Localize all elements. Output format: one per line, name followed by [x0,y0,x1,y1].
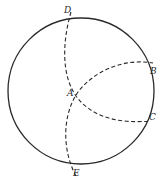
spherical-geometry-diagram: D A B C E [0,0,164,184]
label-b: B [149,66,157,76]
dashed-arc-d-to-c [65,12,150,122]
label-a: A [66,88,74,98]
great-circle-outline [8,18,154,164]
label-c: C [149,112,156,122]
label-d: D [63,5,71,15]
label-e: E [72,168,80,178]
